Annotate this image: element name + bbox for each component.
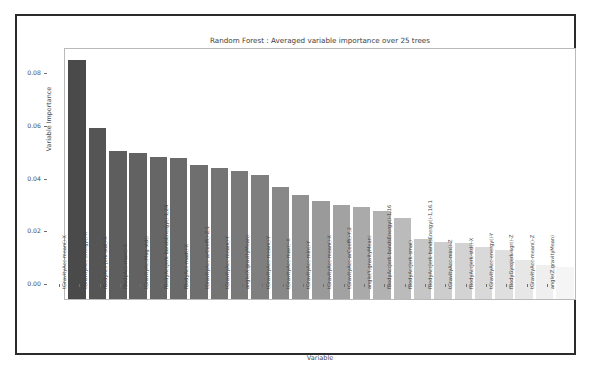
bar: [455, 243, 472, 299]
bar: [414, 239, 431, 299]
bar: [68, 60, 85, 299]
bar: [129, 153, 146, 299]
bar: [150, 157, 167, 299]
bar: [556, 267, 573, 299]
screenshot-root: Random Forest : Averaged variable import…: [0, 0, 591, 368]
bar: [272, 187, 289, 299]
bar: [292, 195, 309, 299]
bar: [231, 171, 248, 299]
plot-panel: [64, 48, 576, 300]
bar-series: [65, 49, 575, 299]
y-axis-title: Variable Importance: [42, 59, 56, 179]
bar: [495, 250, 512, 299]
bar: [190, 165, 207, 299]
window-frame: Random Forest : Averaged variable import…: [15, 14, 576, 355]
bar: [373, 211, 390, 299]
bar: [394, 218, 411, 299]
x-axis-title: Variable: [64, 352, 576, 364]
bar: [312, 201, 329, 299]
bar: [475, 247, 492, 299]
bar: [515, 260, 532, 299]
bar: [89, 128, 106, 299]
chart-title: Random Forest : Averaged variable import…: [64, 34, 576, 47]
bar: [109, 151, 126, 299]
bar: [170, 158, 187, 299]
bar: [434, 242, 451, 299]
bar: [211, 168, 228, 299]
bar: [251, 175, 268, 299]
bar: [333, 205, 350, 299]
bar: [353, 207, 370, 299]
bar: [536, 265, 553, 299]
